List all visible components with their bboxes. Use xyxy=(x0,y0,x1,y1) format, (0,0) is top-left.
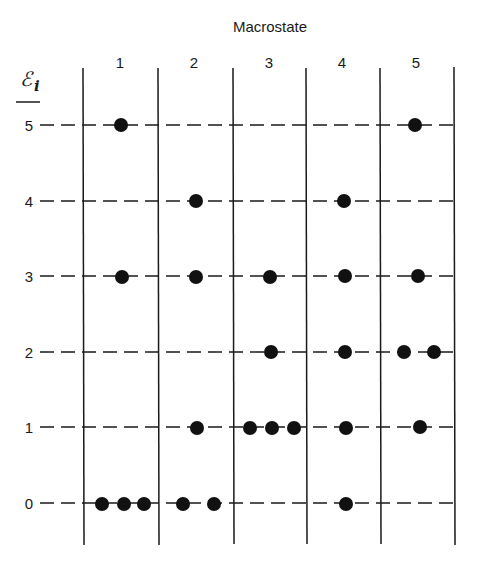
particle-dot xyxy=(189,194,203,208)
particle-dot xyxy=(115,270,129,284)
particle-dot xyxy=(408,118,422,132)
particle-dot xyxy=(117,497,131,511)
column-label-4: 4 xyxy=(338,54,346,71)
divider-line xyxy=(233,68,234,544)
column-label-1: 1 xyxy=(116,54,124,71)
particle-dot xyxy=(264,345,278,359)
divider-line xyxy=(454,67,455,545)
particle-dot xyxy=(411,269,425,283)
particle-dot xyxy=(243,421,257,435)
particle-dot xyxy=(176,497,190,511)
particle-dot xyxy=(207,497,221,511)
macrostate-diagram: Macrostate 1 2 3 4 5 ℰi 5 4 3 2 1 0 xyxy=(0,0,477,567)
energy-symbol: ℰi xyxy=(20,67,40,95)
particle-dot xyxy=(265,421,279,435)
energy-letter: ℰ xyxy=(20,67,34,91)
level-label-0: 0 xyxy=(25,495,33,512)
column-label-3: 3 xyxy=(265,54,273,71)
level-label-1: 1 xyxy=(25,419,33,436)
level-label-5: 5 xyxy=(25,117,33,134)
column-label-5: 5 xyxy=(412,54,420,71)
level-label-3: 3 xyxy=(25,268,33,285)
particle-dot xyxy=(337,194,351,208)
level-label-4: 4 xyxy=(25,193,33,210)
column-label-2: 2 xyxy=(190,54,198,71)
divider-line xyxy=(380,68,381,544)
energy-axis-label: ℰi xyxy=(16,67,40,102)
particles xyxy=(95,118,441,511)
particle-dot xyxy=(189,270,203,284)
particle-dot xyxy=(427,345,441,359)
level-labels: 5 4 3 2 1 0 xyxy=(25,117,33,512)
diagram-title: Macrostate xyxy=(233,18,307,35)
particle-dot xyxy=(338,269,352,283)
particle-dot xyxy=(190,421,204,435)
energy-subscript: i xyxy=(34,77,40,95)
divider-line xyxy=(158,68,159,545)
particle-dot xyxy=(287,421,301,435)
level-label-2: 2 xyxy=(25,344,33,361)
particle-dot xyxy=(95,497,109,511)
divider-line xyxy=(83,68,84,545)
divider-line xyxy=(306,68,307,544)
particle-dot xyxy=(339,497,353,511)
particle-dot xyxy=(413,420,427,434)
particle-dot xyxy=(397,345,411,359)
particle-dot xyxy=(137,497,151,511)
column-labels: 1 2 3 4 5 xyxy=(116,54,420,71)
particle-dot xyxy=(263,270,277,284)
column-dividers xyxy=(83,67,455,545)
energy-level-lines xyxy=(40,125,455,503)
particle-dot xyxy=(339,421,353,435)
particle-dot xyxy=(114,118,128,132)
particle-dot xyxy=(338,345,352,359)
